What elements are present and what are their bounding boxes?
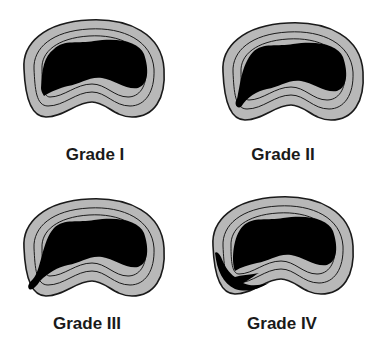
disc-grade-3 [24, 199, 164, 296]
label-grade-3: Grade III [53, 314, 121, 334]
disc-grade-2 [223, 23, 363, 120]
label-grade-1: Grade I [66, 145, 125, 165]
disc-grade-4 [213, 197, 353, 294]
label-grade-4: Grade IV [247, 314, 317, 334]
disc-grade-1 [24, 20, 164, 117]
disc-diagram [0, 0, 371, 340]
label-grade-2: Grade II [251, 145, 314, 165]
